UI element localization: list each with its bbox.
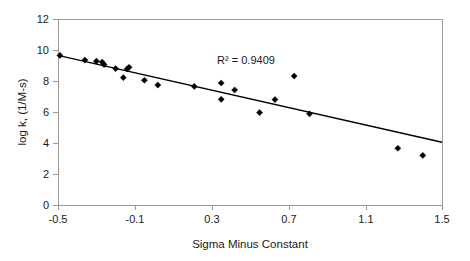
data-point: [141, 77, 147, 83]
data-point: [218, 96, 224, 102]
x-axis-ticks: -0.5 -0.1 0.3 0.7 1.1 1.5: [49, 205, 450, 225]
y-tick-label: 0: [43, 199, 49, 211]
x-tick-label: 1.1: [358, 213, 373, 225]
y-tick-label: 4: [43, 137, 49, 149]
data-point: [113, 66, 119, 72]
data-point: [120, 74, 126, 80]
x-axis-title: Sigma Minus Constant: [192, 238, 308, 250]
data-point: [395, 145, 401, 151]
y-tick-label: 8: [43, 75, 49, 87]
x-tick-label: 0.3: [204, 213, 219, 225]
data-point: [232, 87, 238, 93]
data-point: [291, 73, 297, 79]
r-squared-annotation: R² = 0.9409: [217, 54, 275, 66]
x-tick-label: -0.1: [126, 213, 145, 225]
y-tick-label: 12: [37, 13, 49, 25]
data-point: [420, 152, 426, 158]
x-tick-label: 0.7: [281, 213, 296, 225]
y-axis-ticks: 12 10 8 6 4 2 0: [37, 13, 58, 211]
data-point: [257, 110, 263, 116]
scatter-plot: 12 10 8 6 4 2 0 -0.5 -0.1 0.3 0.7 1.1 1.…: [0, 0, 470, 261]
data-point: [218, 80, 224, 86]
data-point: [272, 97, 278, 103]
data-point: [191, 83, 197, 89]
axes-frame: [58, 19, 442, 205]
y-tick-label: 10: [37, 44, 49, 56]
x-tick-label: 1.5: [434, 213, 449, 225]
x-tick-label: -0.5: [49, 213, 68, 225]
data-point: [155, 82, 161, 88]
y-tick-label: 2: [43, 168, 49, 180]
chart-container: 12 10 8 6 4 2 0 -0.5 -0.1 0.3 0.7 1.1 1.…: [0, 0, 470, 261]
y-axis-title: log k, (1/M-s): [16, 78, 28, 145]
y-tick-label: 6: [43, 106, 49, 118]
